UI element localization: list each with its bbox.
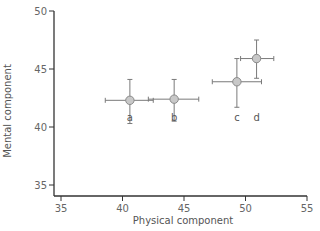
- scatter-chart: 354045503540455055 abcd Physical compone…: [0, 0, 320, 231]
- point-marker: [126, 96, 134, 104]
- point-marker: [170, 95, 178, 103]
- point-marker: [233, 78, 241, 86]
- x-axis-title: Physical component: [133, 215, 234, 226]
- x-tick-label: 55: [301, 203, 314, 214]
- data-points: abcd: [105, 40, 274, 124]
- y-tick-label: 45: [34, 64, 47, 75]
- x-tick-label: 40: [116, 203, 129, 214]
- y-tick-label: 50: [34, 6, 47, 17]
- point-label: a: [127, 112, 133, 123]
- data-point-a: a: [105, 79, 153, 123]
- data-point-b: b: [148, 79, 198, 123]
- point-label: d: [253, 112, 259, 123]
- point-label: c: [234, 112, 240, 123]
- y-tick-label: 35: [34, 180, 47, 191]
- x-tick-label: 35: [55, 203, 68, 214]
- point-marker: [252, 54, 260, 62]
- x-tick-label: 50: [239, 203, 252, 214]
- x-tick-label: 45: [178, 203, 191, 214]
- point-label: b: [171, 112, 177, 123]
- y-tick-label: 40: [34, 122, 47, 133]
- y-axis-title: Mental component: [2, 64, 13, 158]
